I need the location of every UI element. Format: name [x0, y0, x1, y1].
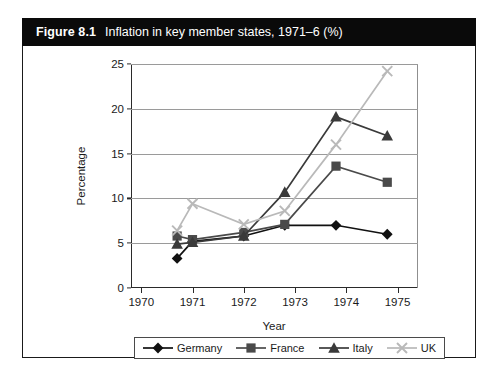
x-tick-label: 1973	[282, 296, 308, 308]
data-point-uk	[382, 66, 392, 76]
legend-item-uk[interactable]: UK	[387, 341, 436, 355]
legend-label: Germany	[177, 342, 222, 354]
x-tick-mark	[141, 288, 142, 293]
series-line-germany	[177, 225, 387, 258]
x-tick-mark	[398, 288, 399, 293]
legend-label: Italy	[353, 342, 373, 354]
x-tick-mark	[295, 288, 296, 293]
x-tick-label: 1972	[231, 296, 257, 308]
y-tick-label: 5	[118, 237, 124, 249]
figure-page: Figure 8.1 Inflation in key member state…	[0, 0, 498, 379]
legend-item-germany[interactable]: Germany	[143, 341, 222, 355]
data-point-uk	[280, 206, 290, 216]
data-point-uk	[188, 199, 198, 209]
y-tick-label: 10	[111, 192, 124, 204]
x-tick-mark	[244, 288, 245, 293]
x-tick-mark	[346, 288, 347, 293]
x-axis-label: Year	[262, 320, 285, 332]
triangle-icon	[319, 341, 349, 355]
series-line-uk	[177, 71, 387, 230]
y-tick-label: 15	[111, 148, 124, 160]
data-point-italy	[279, 186, 291, 197]
cross-icon	[387, 341, 417, 355]
data-point-italy	[330, 111, 342, 122]
x-tick-label: 1971	[180, 296, 206, 308]
diamond-icon	[143, 341, 173, 355]
legend-label: UK	[421, 342, 436, 354]
data-point-germany	[331, 220, 342, 231]
figure-body: Percentage Year 0510152025 1970197119721…	[22, 46, 476, 358]
figure-header: Figure 8.1 Inflation in key member state…	[22, 18, 476, 46]
legend-item-france[interactable]: France	[236, 341, 304, 355]
data-point-france	[383, 178, 392, 187]
data-point-italy	[381, 130, 393, 141]
data-point-france	[280, 220, 289, 229]
series-layer	[131, 64, 418, 288]
y-tick-label: 25	[111, 58, 124, 70]
y-tick-label: 0	[118, 282, 124, 294]
figure-container: Figure 8.1 Inflation in key member state…	[22, 18, 476, 358]
legend-item-italy[interactable]: Italy	[319, 341, 373, 355]
plot-area: 0510152025 197019711972197319741975	[131, 64, 418, 288]
data-point-uk	[331, 140, 341, 150]
data-point-germany	[382, 229, 393, 240]
legend-label: France	[270, 342, 304, 354]
x-tick-label: 1974	[333, 296, 359, 308]
figure-number: Figure 8.1	[36, 25, 96, 39]
square-icon	[236, 341, 266, 355]
x-tick-label: 1975	[385, 296, 411, 308]
figure-title: Inflation in key member states, 1971–6 (…	[105, 25, 343, 39]
data-point-france	[331, 162, 340, 171]
x-tick-label: 1970	[128, 296, 154, 308]
chart-legend: GermanyFranceItalyUK	[134, 337, 445, 359]
y-tick-label: 20	[111, 103, 124, 115]
y-axis-label: Percentage	[75, 147, 87, 206]
x-tick-mark	[193, 288, 194, 293]
